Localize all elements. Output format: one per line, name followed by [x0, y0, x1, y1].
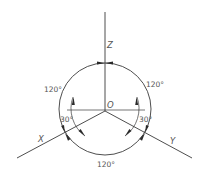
angle-label-top-right: 120°: [146, 80, 164, 89]
z-axis-label: Z: [106, 40, 113, 50]
angle-label-top-left: 120°: [44, 85, 62, 94]
isometric-axes-diagram: Z X Y O 120° 120° 120° 30° 30°: [0, 0, 209, 187]
angle-label-bottom: 120°: [97, 160, 115, 169]
y-axis-label: Y: [170, 136, 176, 146]
x-axis-label: X: [37, 134, 44, 144]
angle-label-right-small: 30°: [139, 115, 153, 124]
angle-label-left-small: 30°: [60, 115, 74, 124]
origin-label: O: [107, 100, 114, 110]
